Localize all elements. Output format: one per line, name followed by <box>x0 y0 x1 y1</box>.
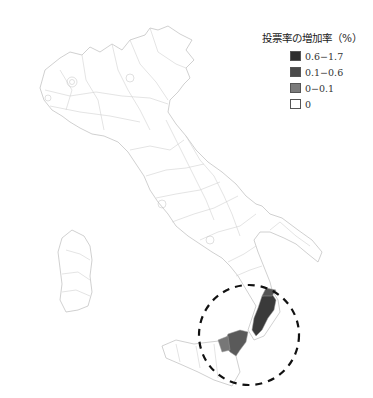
legend-item-low: 0−0.1 <box>290 80 372 96</box>
legend-item-mid: 0.1−0.6 <box>290 64 372 80</box>
legend-item-high: 0.6−1.7 <box>290 48 372 64</box>
legend-swatch-zero <box>290 99 301 109</box>
legend-swatch-high <box>290 51 301 61</box>
sardinia <box>58 230 92 312</box>
legend-item-zero: 0 <box>290 96 372 112</box>
legend: 投票率の増加率（%） 0.6−1.7 0.1−0.6 0−0.1 0 <box>262 30 372 112</box>
legend-swatch-low <box>290 83 301 93</box>
highlight-circle <box>199 285 299 385</box>
legend-title: 投票率の増加率（%） <box>262 30 372 45</box>
legend-swatch-mid <box>290 67 301 77</box>
